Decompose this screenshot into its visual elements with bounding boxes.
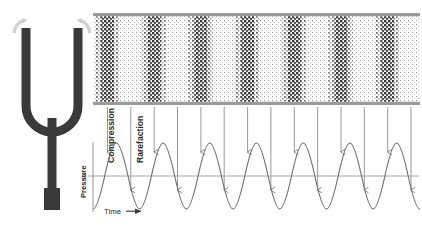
- panel-bottom-bar: [93, 102, 420, 106]
- y-axis-label: Pressure: [79, 165, 88, 198]
- x-axis-label: Time: [104, 207, 121, 216]
- density-bands: [93, 17, 420, 102]
- air-density-panel: [93, 13, 420, 105]
- compression-label: Compression: [106, 108, 116, 163]
- panel-top-bar: [93, 13, 420, 17]
- y-axis-zero-tick: 0: [82, 172, 86, 181]
- sound-wave-diagram: Compression Rarefaction Pressure 0 Time: [0, 0, 422, 231]
- rarefaction-label: Rarefaction: [135, 116, 145, 163]
